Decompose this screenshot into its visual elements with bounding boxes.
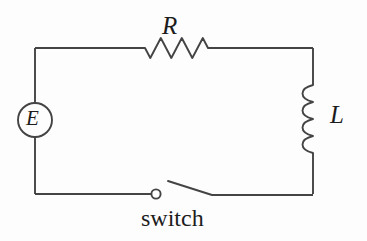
switch-label: switch: [141, 206, 204, 230]
circuit-diagram: R L E switch: [0, 0, 367, 241]
inductor-coil: [303, 85, 314, 153]
emf-source-label: E: [26, 108, 39, 129]
resistor-label: R: [162, 13, 177, 38]
inductor-label: L: [330, 102, 344, 127]
switch-terminal-circle[interactable]: [151, 189, 160, 198]
switch-lever-arm[interactable]: [168, 181, 212, 195]
resistor-zigzag: [145, 38, 208, 58]
